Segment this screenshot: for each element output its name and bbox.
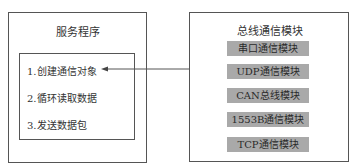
connector-arrow bbox=[0, 0, 355, 168]
arrow-head-icon bbox=[101, 67, 108, 72]
